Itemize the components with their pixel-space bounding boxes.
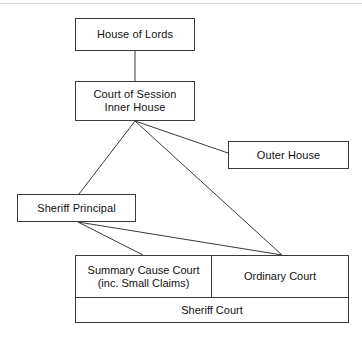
court-structure-diagram: House of Lords Court of Session Inner Ho…	[0, 0, 362, 338]
edge-principal-to-summary-cause	[78, 222, 143, 255]
node-summary-cause-court-line2: (inc. Small Claims)	[79, 277, 208, 290]
node-summary-cause-court-label: Summary Cause Court (inc. Small Claims)	[76, 264, 211, 290]
node-sheriff-principal: Sheriff Principal	[17, 194, 136, 222]
node-ordinary-court: Ordinary Court	[212, 256, 348, 297]
node-sheriff-court-table: Summary Cause Court (inc. Small Claims) …	[75, 255, 349, 323]
node-court-of-session-label: Court of Session Inner House	[76, 88, 194, 114]
node-ordinary-court-label: Ordinary Court	[212, 270, 348, 283]
edge-session-to-sheriff-principal	[79, 121, 135, 194]
node-court-of-session-line2: Inner House	[79, 101, 191, 114]
node-summary-cause-court-line1: Summary Cause Court	[88, 264, 200, 276]
edge-session-to-outer-house	[135, 121, 228, 153]
node-sheriff-principal-label: Sheriff Principal	[18, 202, 135, 215]
node-sheriff-court-label: Sheriff Court	[181, 304, 243, 317]
node-court-of-session: Court of Session Inner House	[75, 81, 195, 121]
node-court-of-session-line1: Court of Session	[94, 88, 177, 100]
sheriff-court-upper-row: Summary Cause Court (inc. Small Claims) …	[76, 256, 348, 298]
node-outer-house-label: Outer House	[229, 149, 348, 162]
node-outer-house: Outer House	[228, 141, 349, 169]
top-divider-rule	[0, 3, 362, 4]
node-house-of-lords: House of Lords	[75, 18, 195, 51]
node-sheriff-court: Sheriff Court	[76, 298, 348, 322]
node-summary-cause-court: Summary Cause Court (inc. Small Claims)	[76, 256, 212, 297]
edge-principal-to-ordinary-court	[78, 222, 282, 255]
node-house-of-lords-label: House of Lords	[76, 28, 194, 41]
